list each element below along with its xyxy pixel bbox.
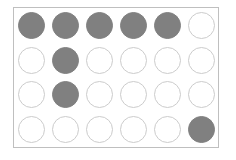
grid-cell[interactable] [14,78,48,113]
empty-circle-icon[interactable] [154,116,181,143]
grid-cell[interactable] [150,112,184,147]
grid-cell[interactable] [116,8,150,43]
empty-circle-icon[interactable] [188,47,215,74]
filled-circle-icon[interactable] [52,81,79,108]
filled-circle-icon[interactable] [52,12,79,39]
grid-cell[interactable] [116,78,150,113]
empty-circle-icon[interactable] [188,81,215,108]
empty-circle-icon[interactable] [86,47,113,74]
grid-cell[interactable] [116,112,150,147]
grid-cell[interactable] [82,43,116,78]
grid-cell[interactable] [48,8,82,43]
filled-circle-icon[interactable] [188,116,215,143]
filled-circle-icon[interactable] [86,12,113,39]
circle-grid [14,8,218,147]
empty-circle-icon[interactable] [18,81,45,108]
grid-cell[interactable] [82,112,116,147]
filled-circle-icon[interactable] [154,12,181,39]
grid-cell[interactable] [184,78,218,113]
grid-cell[interactable] [116,43,150,78]
empty-circle-icon[interactable] [120,81,147,108]
empty-circle-icon[interactable] [86,81,113,108]
empty-circle-icon[interactable] [188,12,215,39]
empty-circle-icon[interactable] [86,116,113,143]
empty-circle-icon[interactable] [154,81,181,108]
grid-cell[interactable] [48,112,82,147]
grid-cell[interactable] [82,78,116,113]
grid-cell[interactable] [184,112,218,147]
filled-circle-icon[interactable] [52,47,79,74]
filled-circle-icon[interactable] [18,12,45,39]
grid-cell[interactable] [14,8,48,43]
grid-cell[interactable] [184,8,218,43]
grid-cell[interactable] [14,43,48,78]
grid-cell[interactable] [82,8,116,43]
grid-cell[interactable] [48,78,82,113]
empty-circle-icon[interactable] [120,116,147,143]
grid-cell[interactable] [150,8,184,43]
filled-circle-icon[interactable] [120,12,147,39]
empty-circle-icon[interactable] [120,47,147,74]
empty-circle-icon[interactable] [18,116,45,143]
circle-grid-panel [13,7,219,148]
grid-cell[interactable] [184,43,218,78]
grid-cell[interactable] [14,112,48,147]
grid-cell[interactable] [150,43,184,78]
screenshot-stage [0,0,236,160]
empty-circle-icon[interactable] [154,47,181,74]
empty-circle-icon[interactable] [52,116,79,143]
grid-cell[interactable] [150,78,184,113]
empty-circle-icon[interactable] [18,47,45,74]
grid-cell[interactable] [48,43,82,78]
